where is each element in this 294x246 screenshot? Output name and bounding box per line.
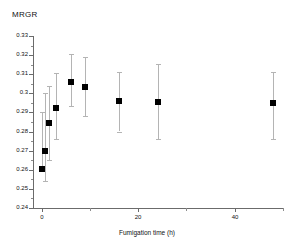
- data-point-marker: [68, 79, 74, 85]
- y-tick: [29, 170, 33, 171]
- y-tick-label: 0.32: [0, 51, 28, 59]
- y-tick-minor: [31, 46, 33, 47]
- plot-area: 0.240.250.260.270.280.290.30.310.320.33 …: [0, 0, 294, 246]
- y-tick-minor: [31, 141, 33, 142]
- error-bar-cap-upper: [54, 73, 59, 74]
- y-tick-minor: [31, 160, 33, 161]
- y-tick-label-text: 0.24: [2, 204, 28, 210]
- y-tick-label: 0.25: [0, 185, 28, 193]
- y-tick: [29, 189, 33, 190]
- y-tick-label: 0.28: [0, 128, 28, 136]
- x-tick: [235, 208, 236, 212]
- y-tick-label: 0.29: [0, 108, 28, 116]
- error-bar-cap-upper: [83, 57, 88, 58]
- error-bar-cap-upper: [43, 93, 48, 94]
- data-point-marker: [270, 100, 276, 106]
- data-point-marker: [116, 98, 122, 104]
- error-bar: [42, 112, 43, 168]
- y-tick-minor: [31, 179, 33, 180]
- y-tick: [29, 112, 33, 113]
- y-tick-minor: [31, 198, 33, 199]
- y-tick-label-text: 0.32: [2, 51, 28, 57]
- y-tick-label: 0.3: [0, 89, 28, 97]
- y-axis-line: [33, 36, 34, 209]
- y-tick: [29, 151, 33, 152]
- error-bar-cap-lower: [43, 181, 48, 182]
- y-tick: [29, 36, 33, 37]
- error-bar-cap-lower: [271, 139, 276, 140]
- error-bar-cap-lower: [83, 116, 88, 117]
- error-bar-cap-lower: [117, 132, 122, 133]
- y-tick-label-text: 0.31: [2, 70, 28, 76]
- x-axis-line: [33, 208, 283, 209]
- x-tick-label: 40: [232, 214, 239, 220]
- y-tick-label-text: 0.29: [2, 108, 28, 114]
- y-tick-label-text: 0.28: [2, 128, 28, 134]
- y-tick: [29, 93, 33, 94]
- error-bar-cap-lower: [54, 139, 59, 140]
- data-point-marker: [42, 148, 48, 154]
- y-tick-label-text: 0.33: [2, 32, 28, 38]
- y-tick-minor: [31, 65, 33, 66]
- x-tick-label: 0: [40, 214, 43, 220]
- data-point-marker: [155, 99, 161, 105]
- y-tick-minor: [31, 103, 33, 104]
- y-tick-label: 0.31: [0, 70, 28, 78]
- y-tick-label-text: 0.26: [2, 166, 28, 172]
- x-tick-minor: [186, 208, 187, 211]
- error-bar-cap-upper: [47, 86, 52, 87]
- y-tick-label: 0.27: [0, 147, 28, 155]
- y-tick-label-text: 0.25: [2, 185, 28, 191]
- error-bar: [45, 93, 46, 181]
- x-axis-title: Fumigation time (h): [0, 229, 294, 236]
- x-tick-minor: [283, 208, 284, 211]
- y-tick: [29, 132, 33, 133]
- y-tick: [29, 55, 33, 56]
- error-bar-cap-upper: [117, 72, 122, 73]
- x-tick-minor: [90, 208, 91, 211]
- error-bar-cap-lower: [47, 160, 52, 161]
- y-tick: [29, 74, 33, 75]
- y-tick-label-text: 0.27: [2, 147, 28, 153]
- y-tick-label: 0.24: [0, 204, 28, 212]
- y-tick: [29, 208, 33, 209]
- y-tick-label: 0.33: [0, 32, 28, 40]
- y-tick-label: 0.26: [0, 166, 28, 174]
- error-bar-cap-lower: [156, 139, 161, 140]
- error-bar-cap-upper: [156, 64, 161, 65]
- error-bar-cap-upper: [271, 72, 276, 73]
- data-point-marker: [82, 84, 88, 90]
- y-tick-minor: [31, 122, 33, 123]
- y-tick-minor: [31, 84, 33, 85]
- error-bar-cap-upper: [69, 54, 74, 55]
- x-tick-label: 20: [135, 214, 142, 220]
- y-tick-label-text: 0.3: [2, 89, 28, 95]
- chart-container: MRGR 0.240.250.260.270.280.290.30.310.32…: [0, 0, 294, 246]
- data-point-marker: [46, 120, 52, 126]
- x-tick: [42, 208, 43, 212]
- data-point-marker: [53, 105, 59, 111]
- error-bar-cap-lower: [69, 106, 74, 107]
- x-tick: [138, 208, 139, 212]
